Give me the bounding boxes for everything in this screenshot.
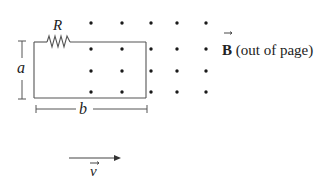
height-label: a — [17, 59, 25, 76]
width-label: b — [79, 100, 87, 117]
field-label: B (out of page) — [222, 42, 313, 59]
field-dot — [120, 69, 123, 72]
velocity-arrowhead-icon — [114, 155, 121, 161]
resistor-icon — [47, 36, 70, 47]
field-dot — [204, 47, 207, 50]
field-dot — [204, 21, 207, 24]
field-dot — [175, 90, 178, 93]
field-dot — [149, 21, 152, 24]
field-dot — [149, 90, 152, 93]
field-dot — [175, 47, 178, 50]
field-dot — [89, 90, 92, 93]
field-dot — [149, 69, 152, 72]
field-dot — [204, 69, 207, 72]
field-dot — [120, 47, 123, 50]
field-dot — [175, 21, 178, 24]
width-dimension — [36, 105, 147, 113]
field-dot — [149, 47, 152, 50]
field-dot — [89, 47, 92, 50]
field-dot — [175, 69, 178, 72]
field-dot — [89, 69, 92, 72]
field-dot — [120, 90, 123, 93]
magnetic-field-dots — [89, 21, 207, 93]
velocity-label: v — [90, 163, 97, 178]
circuit-diagram: R a b B (out of page) v — [0, 0, 324, 178]
field-symbol: B — [222, 42, 232, 58]
resistor-label: R — [52, 17, 62, 33]
field-dot — [120, 21, 123, 24]
field-dot — [89, 21, 92, 24]
field-dot — [204, 90, 207, 93]
field-description: (out of page) — [232, 42, 313, 59]
